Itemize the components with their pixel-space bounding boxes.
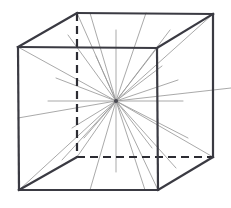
front-right — [157, 48, 158, 190]
front-left — [18, 47, 19, 190]
cube-diagram-svg — [0, 0, 231, 208]
front-top — [18, 47, 157, 48]
figure-container — [0, 0, 231, 208]
convergence-point-dot — [114, 99, 118, 103]
back-top — [77, 13, 213, 14]
